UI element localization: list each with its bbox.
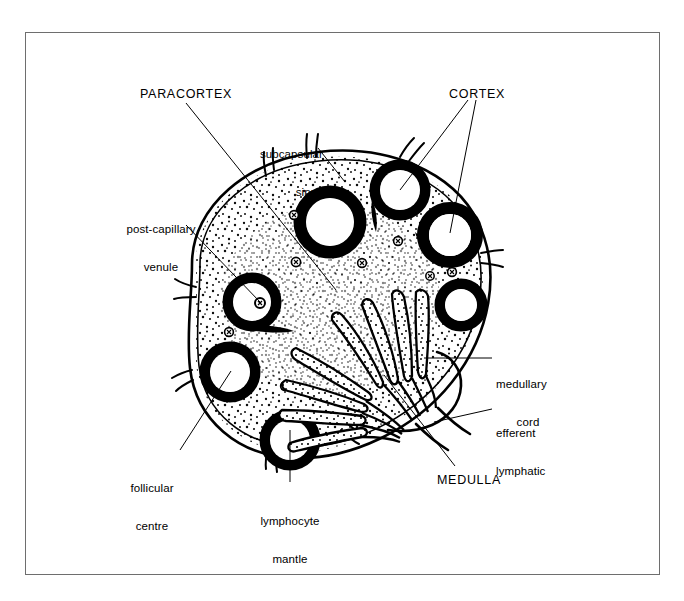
lymph-node-diagram xyxy=(0,0,684,601)
figure-root: PARACORTEX CORTEX subcapsular sinus post… xyxy=(0,0,684,601)
label-efferent-lymphatic-line1: efferent xyxy=(496,427,606,440)
label-efferent-lymphatic-line2: lymphatic xyxy=(496,465,606,478)
label-lymphocyte-mantle: lymphocyte mantle xyxy=(241,489,339,592)
label-follicular-centre-line1: follicular xyxy=(107,482,197,495)
label-lymphocyte-mantle-line1: lymphocyte xyxy=(241,515,339,528)
label-paracortex: PARACORTEX xyxy=(140,87,232,101)
label-medulla: MEDULLA xyxy=(437,473,501,487)
label-follicular-centre: follicular centre xyxy=(107,456,197,559)
label-efferent-lymphatic: efferent lymphatic xyxy=(496,401,606,504)
label-post-capillary-venule-line1: post-capillary xyxy=(111,223,211,236)
label-medullary-cord-line1: medullary xyxy=(496,378,606,391)
label-subcapsular-sinus-line1: subcapsular xyxy=(183,148,323,161)
label-follicular-centre-line2: centre xyxy=(107,520,197,533)
label-cortex: CORTEX xyxy=(449,87,505,101)
label-lymphocyte-mantle-line2: mantle xyxy=(241,553,339,566)
leader-cortex-a xyxy=(400,100,468,190)
label-post-capillary-venule-line2: venule xyxy=(111,261,211,274)
label-post-capillary-venule: post-capillary venule xyxy=(111,197,211,300)
